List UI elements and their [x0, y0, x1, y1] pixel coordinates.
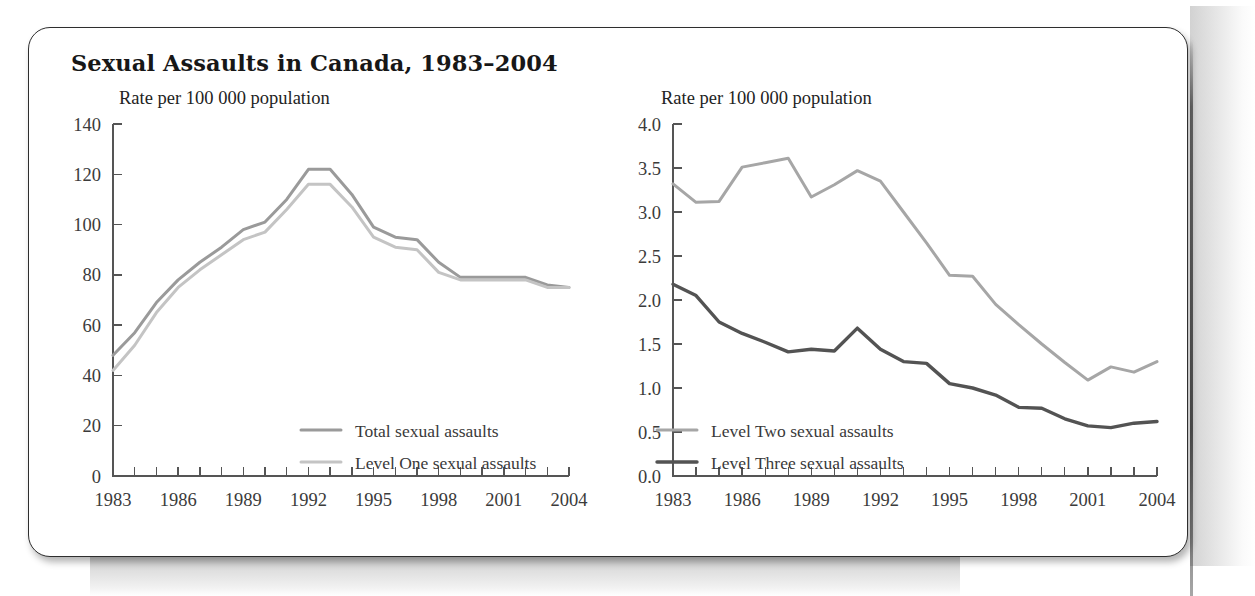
- x-axis-tick-label: 1989: [793, 490, 830, 510]
- series-line-1: [673, 284, 1157, 427]
- y-axis-tick-label: 4.0: [638, 115, 661, 135]
- legend-label-1: Level One sexual assaults: [355, 453, 536, 473]
- x-axis-tick-label: 1995: [931, 490, 968, 510]
- y-axis-tick-label: 100: [73, 215, 101, 235]
- y-axis-tick-label: 20: [83, 416, 102, 436]
- x-axis-tick-label: 1992: [862, 490, 899, 510]
- x-axis-tick-label: 1995: [355, 490, 392, 510]
- x-axis-tick-label: 1998: [1000, 490, 1037, 510]
- scan-shadow-bottom: [90, 556, 960, 596]
- legend-label-0: Level Two sexual assaults: [711, 421, 894, 441]
- x-axis-tick-label: 2001: [1069, 490, 1106, 510]
- x-axis-tick-label: 2001: [485, 490, 522, 510]
- y-axis-tick-label: 40: [83, 366, 102, 386]
- y-axis-tick-label: 140: [73, 115, 101, 135]
- y-axis-tick-label: 3.5: [638, 159, 661, 179]
- x-axis-tick-label: 1989: [225, 490, 262, 510]
- left-chart-axis-heading: Rate per 100 000 population: [119, 88, 330, 109]
- right-chart-panel: Rate per 100 000 population 0.00.51.01.5…: [609, 88, 1179, 538]
- left-chart-panel: Rate per 100 000 population 020406080100…: [51, 88, 591, 538]
- y-axis-tick-label: 1.0: [638, 379, 661, 399]
- x-axis-tick-label: 2004: [1139, 490, 1176, 510]
- scan-shadow-right: [1190, 6, 1255, 566]
- x-axis-tick-label: 2004: [551, 490, 588, 510]
- y-axis-tick-label: 80: [83, 265, 102, 285]
- x-axis-tick-label: 1992: [290, 490, 327, 510]
- x-axis-tick-label: 1983: [655, 490, 692, 510]
- legend-label-0: Total sexual assaults: [355, 421, 499, 441]
- left-chart-plot: 0204060801001201401983198619891992199519…: [51, 114, 591, 534]
- page-title: Sexual Assaults in Canada, 1983–2004: [71, 50, 558, 76]
- right-chart-plot: 0.00.51.01.52.02.53.03.54.01983198619891…: [609, 114, 1179, 534]
- y-axis-tick-label: 2.0: [638, 291, 661, 311]
- x-axis-tick-label: 1983: [95, 490, 132, 510]
- figure-frame: Sexual Assaults in Canada, 1983–2004 Rat…: [28, 27, 1188, 557]
- y-axis-tick-label: 120: [73, 165, 101, 185]
- y-axis-tick-label: 2.5: [638, 247, 661, 267]
- y-axis-tick-label: 0.0: [638, 467, 661, 487]
- x-axis-tick-label: 1986: [724, 490, 761, 510]
- x-axis-tick-label: 1986: [160, 490, 197, 510]
- y-axis-tick-label: 1.5: [638, 335, 661, 355]
- y-axis-tick-label: 3.0: [638, 203, 661, 223]
- scan-page-edge: [1190, 40, 1193, 596]
- y-axis-tick-label: 0.5: [638, 423, 661, 443]
- y-axis-tick-label: 60: [83, 316, 102, 336]
- legend-label-1: Level Three sexual assaults: [711, 453, 904, 473]
- y-axis-tick-label: 0: [92, 467, 101, 487]
- right-chart-axis-heading: Rate per 100 000 population: [661, 88, 872, 109]
- x-axis-tick-label: 1998: [420, 490, 457, 510]
- series-line-0: [673, 158, 1157, 380]
